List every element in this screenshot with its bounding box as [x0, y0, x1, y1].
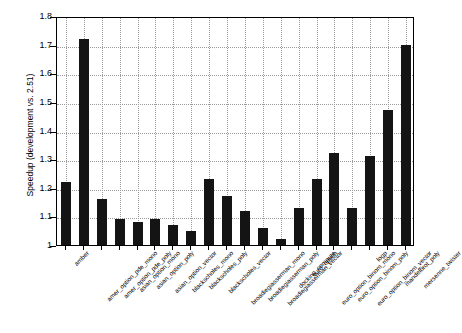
x-tick-mark [226, 246, 227, 250]
bar [133, 222, 143, 245]
bar [204, 179, 214, 245]
gridline-vertical [191, 18, 192, 245]
gridline-vertical [281, 18, 282, 245]
bar [240, 211, 250, 245]
bar [294, 208, 304, 245]
x-tick-mark [387, 246, 388, 250]
bar [186, 231, 196, 245]
x-tick-mark [119, 246, 120, 250]
gridline-vertical [263, 18, 264, 245]
x-tick-mark [101, 246, 102, 250]
y-tick-label: 1.7 [12, 41, 52, 50]
y-tick-label: 1.6 [12, 69, 52, 78]
bar [383, 110, 393, 245]
bar [61, 182, 71, 245]
gridline-horizontal [57, 104, 413, 105]
gridline-vertical [173, 18, 174, 245]
bar [276, 239, 286, 245]
gridline-vertical [120, 18, 121, 245]
y-tick-label: 1.2 [12, 184, 52, 193]
gridline-horizontal [57, 161, 413, 162]
y-tick-label: 1.8 [12, 12, 52, 21]
plot-area [56, 17, 414, 246]
bar [365, 156, 375, 245]
x-tick-mark [137, 246, 138, 250]
x-tick-mark [262, 246, 263, 250]
bar [97, 199, 107, 245]
bar [258, 228, 268, 245]
gridline-vertical [138, 18, 139, 245]
y-tick-label: 1 [12, 241, 52, 250]
y-tick-label: 1.5 [12, 98, 52, 107]
x-tick-mark [280, 246, 281, 250]
bar [312, 179, 322, 245]
x-tick-mark [369, 246, 370, 250]
y-tick-label: 1.3 [12, 155, 52, 164]
bar [79, 39, 89, 245]
x-tick-mark [208, 246, 209, 250]
gridline-horizontal [57, 133, 413, 134]
x-tick-label: amber [73, 250, 90, 267]
x-tick-mark [65, 246, 66, 250]
bar [329, 153, 339, 245]
bar [115, 219, 125, 245]
bar [150, 219, 160, 245]
x-tick-mark [351, 246, 352, 250]
x-tick-mark [298, 246, 299, 250]
bar [401, 45, 411, 245]
y-tick-label: 1.1 [12, 212, 52, 221]
bar [222, 196, 232, 245]
y-tick-label: 1.4 [12, 127, 52, 136]
bar [347, 208, 357, 245]
gridline-horizontal [57, 190, 413, 191]
bar [168, 225, 178, 245]
gridline-horizontal [57, 47, 413, 48]
gridline-horizontal [57, 218, 413, 219]
gridline-horizontal [57, 75, 413, 76]
y-tick-mark [50, 246, 56, 247]
gridline-vertical [155, 18, 156, 245]
x-tick-mark [172, 246, 173, 250]
